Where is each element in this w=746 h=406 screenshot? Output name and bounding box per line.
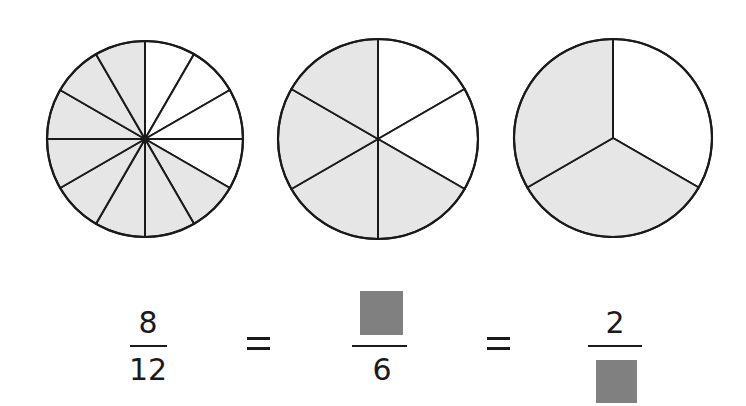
- fraction-circle-1: [47, 41, 243, 237]
- fraction3-bar: [588, 345, 642, 347]
- fraction-circle-2: [278, 39, 478, 239]
- fraction1-numerator: 8: [108, 308, 188, 338]
- equals-sign-2: [487, 337, 510, 350]
- fraction1-denominator: 12: [108, 355, 188, 385]
- blank-denominator-box[interactable]: [596, 360, 637, 403]
- fraction2-denominator: 6: [342, 355, 422, 385]
- fraction2-bar: [352, 345, 407, 347]
- fraction3-numerator: 2: [575, 308, 655, 338]
- equals-sign-1: [247, 337, 270, 350]
- blank-numerator-box[interactable]: [360, 291, 403, 335]
- fraction-circle-3: [514, 39, 712, 237]
- fraction1-bar: [130, 345, 167, 347]
